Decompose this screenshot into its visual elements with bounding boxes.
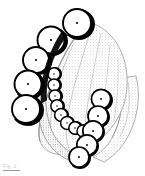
unit-center-dot [100, 98, 102, 100]
arch-unit [63, 9, 91, 37]
unit-center-dot [53, 84, 55, 86]
unit-center-dot [74, 127, 76, 129]
unit-center-dot [53, 73, 55, 75]
unit-center-dot [27, 83, 29, 85]
figure-container: Fig. 1 [0, 0, 145, 176]
unit-center-dot [78, 156, 80, 158]
unit-center-dot [54, 95, 56, 97]
dental-arch-illustration [0, 0, 145, 176]
unit-center-dot [60, 114, 62, 116]
unit-center-dot [35, 59, 37, 61]
arch-unit [48, 79, 60, 91]
arch-unit [12, 95, 40, 123]
unit-center-dot [92, 130, 94, 132]
unit-center-dot [50, 39, 52, 41]
unit-center-dot [66, 122, 68, 124]
unit-center-dot [86, 144, 88, 146]
arch-unit [69, 147, 89, 167]
unit-center-dot [56, 105, 58, 107]
arch-unit [15, 71, 42, 98]
unit-center-dot [97, 115, 99, 117]
unit-center-dot [76, 22, 78, 24]
unit-center-dot [25, 108, 27, 110]
